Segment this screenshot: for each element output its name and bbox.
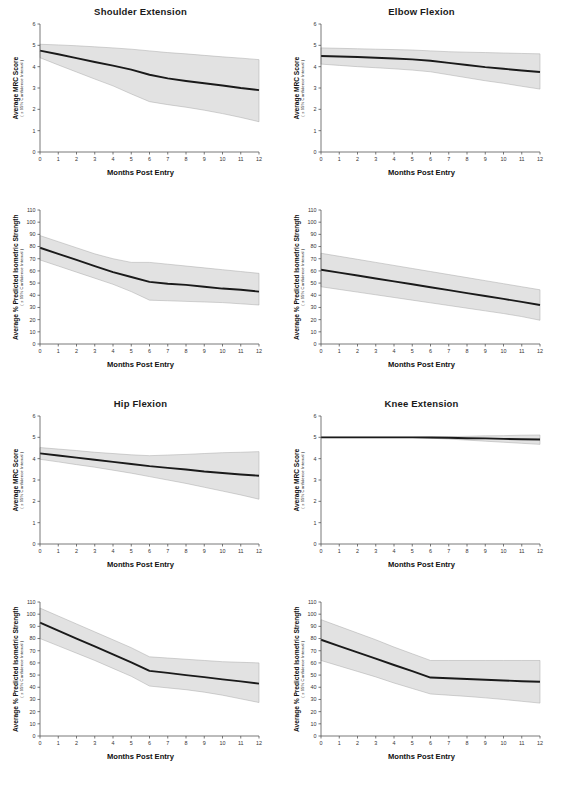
- x-tick-label: 7: [447, 348, 450, 354]
- x-tick-label: 4: [112, 156, 115, 162]
- panel-knee-extension-mrc: Knee Extension Average MRC Score ( ± 95%…: [281, 392, 562, 588]
- confidence-band: [321, 620, 540, 703]
- y-tick-label: 40: [311, 684, 317, 690]
- panel-shoulder-extension-strength: Average % Predicted Isometric Strength (…: [0, 196, 281, 392]
- y-tick-label: 90: [30, 623, 36, 629]
- x-tick-label: 1: [57, 740, 60, 746]
- x-tick-label: 7: [166, 156, 169, 162]
- y-tick-label: 70: [311, 648, 317, 654]
- y-tick-label: 0: [314, 541, 317, 547]
- y-tick-label: 3: [314, 477, 317, 483]
- y-tick-label: 30: [30, 304, 36, 310]
- y-tick-label: 90: [30, 231, 36, 237]
- panel-elbow-flexion-mrc: Elbow Flexion Average MRC Score ( ± 95% …: [281, 0, 562, 196]
- chart-svg: 01234560123456789101112: [0, 0, 281, 196]
- y-tick-label: 4: [33, 456, 36, 462]
- y-tick-label: 10: [30, 329, 36, 335]
- plot-area: 01234560123456789101112: [281, 0, 562, 196]
- plot-area: 01234560123456789101112: [0, 392, 281, 588]
- y-tick-label: 4: [314, 64, 317, 70]
- x-tick-label: 10: [220, 548, 226, 554]
- x-axis-label: Months Post Entry: [0, 168, 281, 177]
- y-tick-label: 10: [30, 721, 36, 727]
- x-tick-label: 12: [256, 548, 262, 554]
- x-tick-label: 7: [166, 548, 169, 554]
- y-tick-label: 6: [33, 413, 36, 419]
- confidence-band: [40, 608, 259, 702]
- y-tick-label: 3: [33, 85, 36, 91]
- x-tick-label: 2: [356, 548, 359, 554]
- y-tick-label: 0: [33, 733, 36, 739]
- x-tick-label: 4: [112, 548, 115, 554]
- x-tick-label: 7: [166, 348, 169, 354]
- y-tick-label: 0: [314, 733, 317, 739]
- x-tick-label: 4: [393, 548, 396, 554]
- x-tick-label: 7: [166, 740, 169, 746]
- x-tick-label: 3: [374, 740, 377, 746]
- y-tick-label: 5: [33, 434, 36, 440]
- y-tick-label: 110: [27, 207, 36, 213]
- y-tick-label: 40: [30, 292, 36, 298]
- y-tick-label: 50: [30, 672, 36, 678]
- x-tick-label: 6: [429, 156, 432, 162]
- x-tick-label: 0: [39, 348, 42, 354]
- panel-hip-flexion-mrc: Hip Flexion Average MRC Score ( ± 95% Co…: [0, 392, 281, 588]
- x-tick-label: 7: [447, 548, 450, 554]
- x-tick-label: 5: [130, 156, 133, 162]
- x-tick-label: 11: [238, 348, 244, 354]
- x-tick-label: 3: [93, 548, 96, 554]
- x-tick-label: 6: [429, 740, 432, 746]
- x-tick-label: 8: [185, 548, 188, 554]
- x-tick-label: 1: [57, 348, 60, 354]
- x-tick-label: 8: [185, 740, 188, 746]
- x-tick-label: 6: [429, 348, 432, 354]
- x-tick-label: 1: [57, 548, 60, 554]
- x-tick-label: 12: [256, 156, 262, 162]
- x-tick-label: 9: [203, 548, 206, 554]
- x-tick-label: 0: [39, 548, 42, 554]
- x-tick-label: 12: [537, 348, 543, 354]
- y-tick-label: 0: [33, 341, 36, 347]
- x-tick-label: 10: [501, 548, 507, 554]
- y-tick-label: 2: [314, 498, 317, 504]
- x-tick-label: 4: [393, 348, 396, 354]
- x-tick-label: 3: [374, 548, 377, 554]
- x-tick-label: 12: [537, 740, 543, 746]
- x-tick-label: 12: [537, 548, 543, 554]
- x-tick-label: 2: [356, 156, 359, 162]
- y-tick-label: 6: [33, 21, 36, 27]
- x-tick-label: 0: [39, 156, 42, 162]
- x-tick-label: 10: [220, 348, 226, 354]
- y-tick-label: 100: [308, 611, 317, 617]
- x-tick-label: 8: [185, 156, 188, 162]
- x-tick-label: 11: [238, 740, 244, 746]
- x-tick-label: 11: [519, 156, 525, 162]
- y-tick-label: 100: [308, 219, 317, 225]
- axis-lines: [321, 24, 540, 152]
- y-tick-label: 80: [311, 243, 317, 249]
- x-axis-label: Months Post Entry: [0, 360, 281, 369]
- y-tick-label: 6: [314, 413, 317, 419]
- y-tick-label: 5: [314, 42, 317, 48]
- y-tick-label: 30: [311, 696, 317, 702]
- x-tick-label: 12: [537, 156, 543, 162]
- x-tick-label: 6: [429, 548, 432, 554]
- x-tick-label: 2: [75, 348, 78, 354]
- x-tick-label: 8: [466, 156, 469, 162]
- x-tick-label: 9: [203, 740, 206, 746]
- x-tick-label: 6: [148, 548, 151, 554]
- y-tick-label: 0: [33, 149, 36, 155]
- confidence-band: [40, 44, 259, 121]
- y-tick-label: 1: [33, 520, 36, 526]
- y-tick-label: 3: [33, 477, 36, 483]
- panel-knee-extension-strength: Average % Predicted Isometric Strength (…: [281, 588, 562, 784]
- x-tick-label: 10: [501, 348, 507, 354]
- x-tick-label: 12: [256, 348, 262, 354]
- y-tick-label: 90: [311, 623, 317, 629]
- y-tick-label: 60: [311, 268, 317, 274]
- x-tick-label: 11: [519, 548, 525, 554]
- x-tick-label: 5: [130, 740, 133, 746]
- y-tick-label: 70: [30, 648, 36, 654]
- y-tick-label: 0: [33, 541, 36, 547]
- x-tick-label: 6: [148, 740, 151, 746]
